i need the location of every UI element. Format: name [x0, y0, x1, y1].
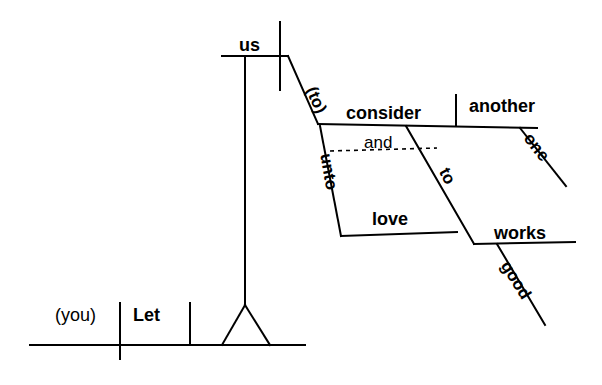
- word-direct-object: another: [469, 97, 535, 115]
- tripod-right-leg: [245, 305, 270, 345]
- word-prep-object-love: love: [372, 210, 408, 228]
- love-baseline: [341, 232, 457, 236]
- tripod-left-leg: [222, 305, 245, 345]
- word-verb: Let: [133, 306, 160, 324]
- word-object-us: us: [239, 36, 260, 54]
- sentence-diagram: (you) Let us (to) consider another one u…: [0, 0, 602, 385]
- to-preposition-line: [406, 126, 474, 244]
- word-infinitive-verb: consider: [346, 104, 421, 122]
- word-prep-object-works: works: [494, 224, 546, 242]
- word-conjunction-and: and: [364, 134, 392, 151]
- diagram-lines: [0, 0, 602, 385]
- consider-baseline: [318, 124, 537, 128]
- word-subject: (you): [55, 306, 96, 324]
